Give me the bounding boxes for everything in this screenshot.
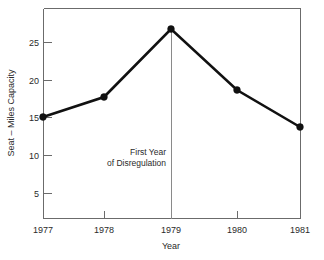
y-tick-label-10: 10 bbox=[29, 151, 39, 161]
data-point-1981 bbox=[297, 124, 304, 131]
data-point-1979 bbox=[168, 26, 175, 33]
data-point-1978 bbox=[101, 94, 108, 101]
x-axis-title: Year bbox=[162, 241, 180, 251]
x-tick-label-1980: 1980 bbox=[227, 225, 247, 235]
y-tick-label-15: 15 bbox=[29, 113, 39, 123]
y-axis-title: Seat – Miles Capacity bbox=[6, 69, 16, 157]
annotation-line-1: First Year bbox=[130, 147, 166, 157]
seat-miles-capacity-line-chart: 25 20 15 10 5 1977 1978 1979 1980 1981 S… bbox=[0, 0, 324, 260]
y-tick-label-5: 5 bbox=[34, 189, 39, 199]
x-tick-label-1979: 1979 bbox=[161, 225, 181, 235]
data-point-1980 bbox=[234, 87, 241, 94]
x-tick-label-1981: 1981 bbox=[290, 225, 310, 235]
annotation-line-2: of Disregulation bbox=[107, 158, 166, 168]
data-point-1977 bbox=[40, 114, 47, 121]
chart-figure: 25 20 15 10 5 1977 1978 1979 1980 1981 S… bbox=[0, 0, 324, 260]
x-tick-label-1977: 1977 bbox=[33, 225, 53, 235]
y-tick-label-20: 20 bbox=[29, 76, 39, 86]
y-tick-label-25: 25 bbox=[29, 38, 39, 48]
x-tick-label-1978: 1978 bbox=[94, 225, 114, 235]
